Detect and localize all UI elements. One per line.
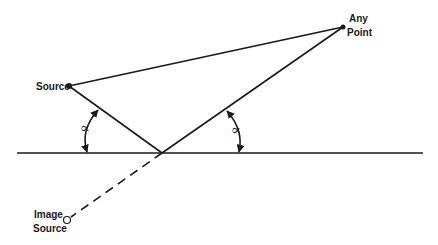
any-point-dot bbox=[341, 25, 346, 30]
image-source-dashed-line bbox=[71, 153, 162, 217]
image-source-label-line1: Image bbox=[34, 209, 63, 220]
image-source-label-line2: Source bbox=[33, 223, 67, 234]
angle-symbol-right: ∝ bbox=[231, 121, 241, 139]
angle-symbol-left: ∝ bbox=[80, 119, 90, 137]
any-point-label-line2: Point bbox=[347, 27, 373, 38]
reflection-diagram: ∝ ∝ Source Any Point Image Source bbox=[0, 0, 438, 245]
any-point-label-line1: Any bbox=[349, 13, 368, 24]
source-label: Source bbox=[36, 81, 70, 92]
